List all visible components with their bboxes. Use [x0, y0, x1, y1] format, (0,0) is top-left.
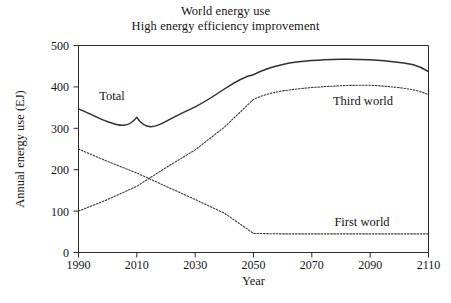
- series-line-total: [79, 59, 429, 126]
- y-tick-label-200: 200: [51, 163, 69, 177]
- figure-container: World energy use High energy efficiency …: [0, 0, 451, 303]
- x-axis-ticks: [79, 253, 429, 258]
- x-tick-label-2070: 2070: [300, 258, 324, 272]
- series-annotation-total: Total: [99, 89, 125, 103]
- x-tick-label-2030: 2030: [183, 258, 207, 272]
- y-tick-label-100: 100: [51, 205, 69, 219]
- figure-caption: [0, 288, 451, 297]
- y-tick-label-400: 400: [51, 80, 69, 94]
- x-tick-label-2010: 2010: [125, 258, 149, 272]
- x-axis-title: Year: [242, 274, 266, 288]
- y-axis-ticks: [74, 46, 79, 253]
- y-tick-label-300: 300: [51, 122, 69, 136]
- x-axis-tick-labels: 1990 2010 2030 2050 2070 2090 2110: [67, 258, 441, 272]
- chart-svg: 500 400 300 200 100 0 1990 2010: [0, 0, 451, 303]
- x-tick-label-1990: 1990: [67, 258, 91, 272]
- y-axis-tick-labels: 500 400 300 200 100 0: [51, 39, 69, 260]
- series-annotation-first-world: First world: [334, 215, 390, 229]
- y-axis-title: Annual energy use (EJ): [13, 90, 27, 207]
- series-annotation-third-world: Third world: [333, 94, 394, 108]
- x-tick-label-2090: 2090: [358, 258, 382, 272]
- plot-area-wrapper: 500 400 300 200 100 0 1990 2010: [0, 0, 451, 303]
- x-tick-label-2110: 2110: [417, 258, 441, 272]
- x-tick-label-2050: 2050: [242, 258, 266, 272]
- y-tick-label-500: 500: [51, 39, 69, 53]
- series-group: [79, 59, 429, 234]
